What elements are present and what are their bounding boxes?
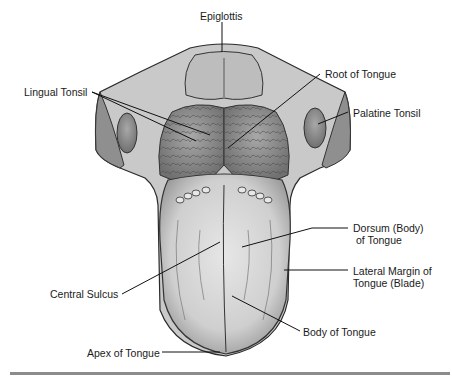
label-central-sulcus: Central Sulcus	[50, 288, 118, 300]
label-lateral-margin: Lateral Margin of Tongue (Blade)	[353, 265, 432, 289]
bottom-rule	[10, 372, 450, 375]
label-dorsum-of-tongue: Dorsum (Body) of Tongue	[353, 222, 424, 246]
label-palatine-tonsil: Palatine Tonsil	[353, 107, 421, 119]
label-body-of-tongue: Body of Tongue	[303, 326, 376, 338]
label-epiglottis: Epiglottis	[200, 10, 243, 22]
left-palatine-tonsil	[117, 113, 137, 153]
right-palatine-tonsil	[304, 108, 326, 148]
tongue-anatomy-diagram: Epiglottis Lingual Tonsil Root of Tongue…	[0, 0, 452, 381]
label-apex-of-tongue: Apex of Tongue	[87, 347, 160, 359]
label-lingual-tonsil: Lingual Tonsil	[24, 86, 87, 98]
label-root-of-tongue: Root of Tongue	[325, 68, 396, 80]
tongue-illustration	[0, 0, 452, 381]
